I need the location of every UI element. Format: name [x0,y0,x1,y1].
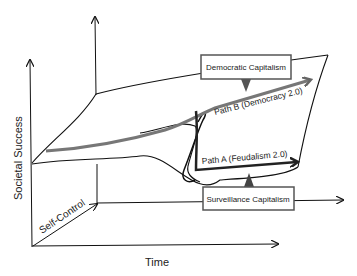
callout-top-text: Democratic Capitalism [206,63,286,72]
surface-right-edge [298,55,328,167]
y-axis-back [95,17,96,95]
path-b-arrow [46,80,310,151]
y-axis-front [30,60,32,247]
cusp-catastrophe-diagram: Democratic Capitalism Surveillance Capit… [0,0,357,276]
callout-bottom-text: Surveillance Capitalism [206,195,289,204]
y-axis-label: Societal Success [12,116,24,200]
path-b-label: Path B (Democracy 2.0) [213,85,304,117]
z-axis-label: Self-Control [37,197,87,236]
x-axis-time [32,244,278,246]
x-axis-label: Time [145,256,169,268]
callout-surveillance-capitalism: Surveillance Capitalism [203,173,294,210]
callout-democratic-capitalism: Democratic Capitalism [201,55,291,92]
